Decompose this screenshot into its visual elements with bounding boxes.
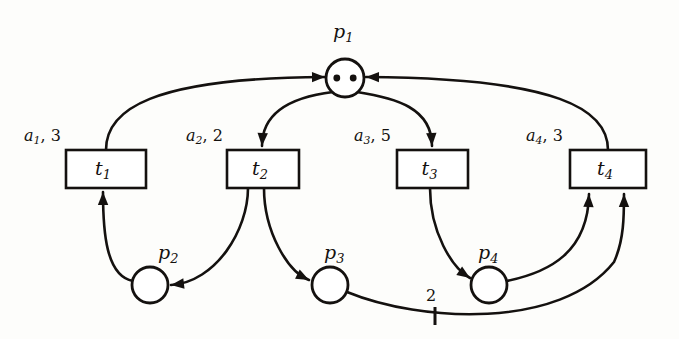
place-label-p4: p4 xyxy=(478,243,498,266)
transition-label-t3: t3 xyxy=(422,159,438,182)
transition-label-t1: t1 xyxy=(95,159,111,182)
arc-weight-label: 2 xyxy=(426,288,436,304)
arrowhead-p4-to-t4 xyxy=(583,194,593,207)
transition-arc-label-t1: a1, 3 xyxy=(24,128,61,147)
arrowhead-t1-to-p1 xyxy=(312,72,325,82)
arrowhead-p1-to-t3 xyxy=(426,133,436,146)
transition-label-t4: t4 xyxy=(597,159,613,182)
arrowhead-p3-to-t4 xyxy=(619,194,629,207)
arcs-layer xyxy=(98,72,629,314)
place-label-p3: p3 xyxy=(324,243,344,266)
place-p2[interactable] xyxy=(132,267,168,303)
place-p3[interactable] xyxy=(312,267,348,303)
place-label-p2: p2 xyxy=(158,243,178,266)
petri-net-canvas: 2t1a1, 3t2a2, 2t3a3, 5t4a4, 3p1p2p3p4 xyxy=(0,0,679,339)
transition-label-t2: t2 xyxy=(252,159,268,182)
transition-arc-label-t4: a4, 3 xyxy=(526,128,563,147)
place-p4[interactable] xyxy=(471,267,507,303)
token-dot-p1 xyxy=(350,75,357,82)
arrowhead-t2-to-p2 xyxy=(171,278,185,288)
arrowhead-t4-to-p1 xyxy=(366,72,379,82)
arc-t4-to-p1 xyxy=(366,77,608,150)
arc-p4-to-t4 xyxy=(507,194,589,281)
arc-p2-to-t1 xyxy=(103,192,133,281)
arc-t2-to-p2 xyxy=(171,188,248,285)
transition-arc-label-t3: a3, 5 xyxy=(354,128,391,147)
transition-arc-label-t2: a2, 2 xyxy=(186,128,223,147)
arc-p1-to-t2 xyxy=(262,92,333,146)
arc-t2-to-p3 xyxy=(264,188,309,280)
arrowhead-p1-to-t2 xyxy=(258,133,268,146)
arc-t3-to-p4 xyxy=(430,188,470,278)
nodes-layer xyxy=(66,59,646,303)
token-dot-p1 xyxy=(333,75,340,82)
arrowhead-p2-to-t1 xyxy=(98,192,108,205)
place-label-p1: p1 xyxy=(333,22,353,45)
place-p1[interactable] xyxy=(326,59,364,97)
